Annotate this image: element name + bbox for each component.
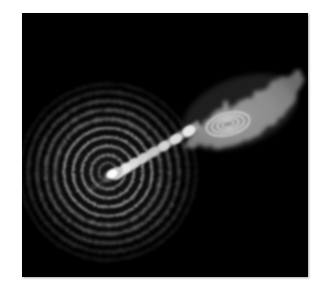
sky-background: [22, 13, 308, 277]
astronomy-image-panel[interactable]: Grayscale astronomical image of concentr…: [22, 13, 308, 277]
figure-stage: Grayscale astronomical image of concentr…: [0, 0, 328, 297]
